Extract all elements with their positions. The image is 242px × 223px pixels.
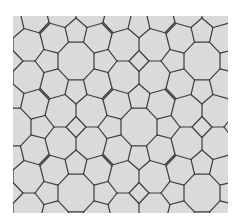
tile-edge (229, 221, 239, 223)
tile-edge (228, 155, 238, 165)
tile-edge (45, 0, 54, 7)
tile-edge (224, 0, 233, 7)
tile-edge (234, 205, 238, 221)
tile-edge (157, 3, 171, 7)
tile-edge (39, 221, 49, 223)
tile-edge (229, 154, 239, 164)
tile-edge (2, 93, 6, 108)
tile-edge (0, 221, 2, 223)
tile-edge (102, 220, 112, 223)
tile-edge (0, 29, 2, 33)
tile-edge (228, 88, 238, 98)
tile-edge (113, 221, 128, 223)
tile-edge (65, 212, 69, 223)
square (192, 0, 212, 5)
tile-edge (234, 73, 238, 89)
tile-edge (165, 221, 175, 223)
tile-edge (229, 22, 239, 32)
tile-edge (2, 146, 6, 161)
tile-edge (239, 29, 242, 33)
tile-edge (234, 181, 242, 193)
octagon (0, 0, 31, 14)
tile-edge (0, 89, 2, 93)
tile-edge (150, 221, 165, 223)
tile-edge (103, 221, 113, 223)
tile-edge (233, 3, 242, 7)
tile-edge (191, 212, 195, 223)
tile-edge (128, 216, 139, 223)
tile-edge (239, 221, 242, 223)
tile-edge (166, 220, 176, 223)
tile-edge (210, 212, 214, 223)
tile-edge (40, 220, 50, 223)
tile-edge (139, 216, 150, 223)
tile-edge (2, 14, 6, 29)
tile-edge (234, 49, 242, 61)
tile-edge (234, 166, 238, 182)
tile-edge (233, 135, 242, 139)
octagon (121, 0, 157, 14)
tile-edge (234, 61, 242, 73)
tile-edge (2, 84, 13, 93)
tile-edge (229, 100, 233, 116)
tile-edge (24, 221, 39, 223)
tile-edge (31, 3, 45, 7)
tile-edge (98, 0, 107, 7)
tile-edge (229, 89, 239, 99)
tile-edge (234, 193, 242, 205)
tile-edge (0, 161, 2, 165)
tile-edge (228, 220, 238, 223)
tile-edge (229, 139, 233, 155)
tile-edge (107, 3, 121, 7)
tile-edge (2, 216, 13, 223)
tile-edge (13, 216, 24, 223)
tile-edge (171, 0, 180, 7)
tile-edge (233, 115, 242, 119)
tile-edge (239, 89, 242, 93)
tile-edge (2, 161, 13, 170)
tile-edge (239, 161, 242, 165)
tile-edge (228, 23, 238, 33)
tile-edge (229, 7, 233, 23)
tile-edge (84, 212, 88, 223)
square (66, 0, 86, 5)
tile-edge (2, 29, 13, 38)
tiling-image (0, 0, 242, 223)
tile-edge (234, 34, 238, 50)
